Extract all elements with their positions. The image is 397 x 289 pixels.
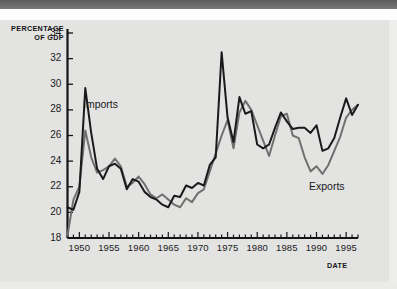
y-tick-label-34: 34 <box>36 27 62 38</box>
y-tick-label-30: 30 <box>36 78 62 89</box>
y-tick-label-32: 32 <box>36 52 62 63</box>
x-tick-label-1995: 1995 <box>329 242 363 253</box>
series-label-exports: Exports <box>309 180 345 192</box>
chart-page: PERCENTAGE OF GDP DATE Imports Exports 1… <box>0 0 397 289</box>
y-tick-label-18: 18 <box>36 232 62 243</box>
x-axis-title: DATE <box>327 261 347 270</box>
series-line-exports <box>68 101 359 236</box>
y-tick-label-26: 26 <box>36 129 62 140</box>
y-tick-label-20: 20 <box>36 206 62 217</box>
y-tick-label-28: 28 <box>36 103 62 114</box>
y-tick-label-24: 24 <box>36 155 62 166</box>
series-label-imports: Imports <box>83 98 118 110</box>
y-tick-label-22: 22 <box>36 180 62 191</box>
